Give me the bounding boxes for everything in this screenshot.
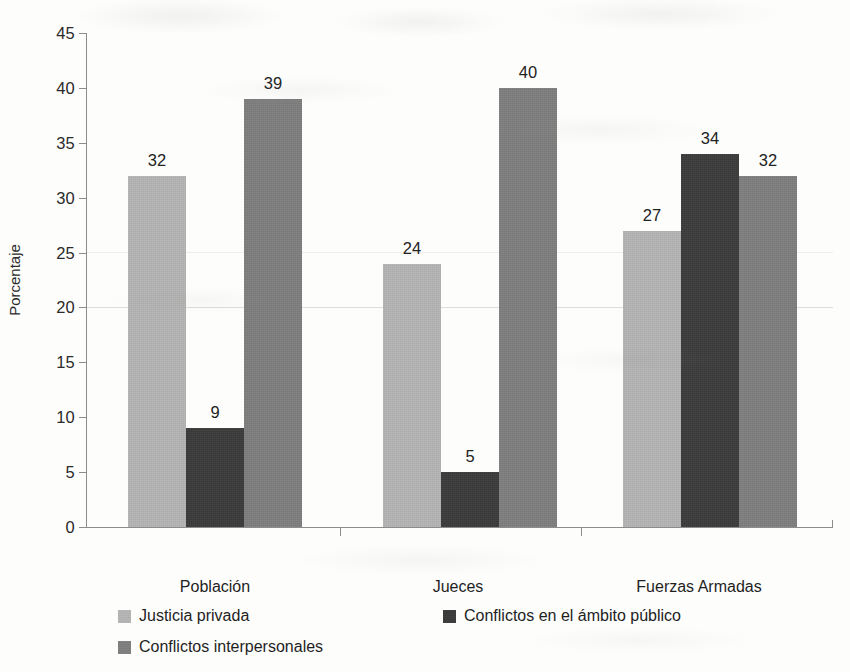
- bar-fuerzas-justicia-privada[interactable]: 27: [623, 231, 681, 527]
- legend-item-label: Conflictos interpersonales: [139, 639, 323, 655]
- legend-swatch-icon: [443, 610, 456, 623]
- legend-swatch-icon: [118, 610, 131, 623]
- bar-fill: [681, 154, 739, 527]
- bar-fill: [739, 176, 797, 527]
- legend-item-label: Justicia privada: [139, 608, 249, 624]
- y-tick-label: 30: [56, 188, 75, 207]
- legend-item-justicia-privada[interactable]: Justicia privada: [118, 608, 249, 624]
- legend-item-conflictos-interpersonales[interactable]: Conflictos interpersonales: [118, 639, 323, 655]
- bar-poblacion-justicia-privada[interactable]: 32: [128, 176, 186, 527]
- x-category-label-fuerzas-armadas: Fuerzas Armadas: [636, 578, 761, 596]
- bar-poblacion-conflictos-interpersonales[interactable]: 39: [244, 99, 302, 527]
- bar-value-label: 34: [701, 129, 719, 148]
- y-tick-label: 0: [66, 518, 75, 537]
- bar-value-label: 32: [148, 151, 166, 170]
- bar-value-label: 32: [759, 151, 777, 170]
- bar-value-label: 9: [210, 403, 219, 422]
- bar-fill: [186, 428, 244, 527]
- legend-swatch-icon: [118, 641, 131, 654]
- x-category-label-poblacion: Población: [180, 578, 250, 596]
- bar-value-label: 39: [264, 74, 282, 93]
- bar-value-label: 5: [465, 447, 474, 466]
- bar-poblacion-conflictos-publico[interactable]: 9: [186, 428, 244, 527]
- y-axis-title: Porcentaje: [6, 244, 23, 316]
- chart-legend: Justicia privada Conflictos en el ámbito…: [118, 608, 818, 666]
- bar-jueces-conflictos-interpersonales[interactable]: 40: [499, 88, 557, 527]
- y-tick-label: 5: [66, 463, 75, 482]
- x-axis-end-cap: [832, 520, 833, 528]
- bar-fuerzas-conflictos-publico[interactable]: 34: [681, 154, 739, 527]
- bar-value-label: 40: [519, 63, 537, 82]
- bar-fill: [383, 264, 441, 528]
- plot-area: 45 40 35 30 25 20 15 10: [86, 33, 833, 527]
- x-category-label-jueces: Jueces: [433, 578, 484, 596]
- legend-item-label: Conflictos en el ámbito público: [464, 608, 681, 624]
- bar-fill: [128, 176, 186, 527]
- chart-page: 45 40 35 30 25 20 15 10: [0, 0, 850, 672]
- y-tick-label: 15: [56, 353, 75, 372]
- y-axis-top-cap: [86, 33, 87, 41]
- y-tick-label: 40: [56, 78, 75, 97]
- y-tick-label: 10: [56, 408, 75, 427]
- y-tick-label: 45: [56, 24, 75, 43]
- bar-fill: [623, 231, 681, 527]
- legend-item-conflictos-ambito-publico[interactable]: Conflictos en el ámbito público: [443, 608, 681, 624]
- bar-fuerzas-conflictos-interpersonales[interactable]: 32: [739, 176, 797, 527]
- y-tick-label: 35: [56, 133, 75, 152]
- bar-fill: [499, 88, 557, 527]
- y-tick-label: 20: [56, 298, 75, 317]
- x-tick-separator: [581, 527, 582, 536]
- x-axis-line: [86, 527, 833, 528]
- bar-jueces-conflictos-publico[interactable]: 5: [441, 472, 499, 527]
- bar-fill: [244, 99, 302, 527]
- bar-jueces-justicia-privada[interactable]: 24: [383, 264, 441, 528]
- y-axis-line: [86, 33, 87, 527]
- bar-value-label: 27: [643, 206, 661, 225]
- bar-value-label: 24: [403, 239, 421, 258]
- bar-fill: [441, 472, 499, 527]
- x-tick-separator: [340, 527, 341, 536]
- y-tick-label: 25: [56, 243, 75, 262]
